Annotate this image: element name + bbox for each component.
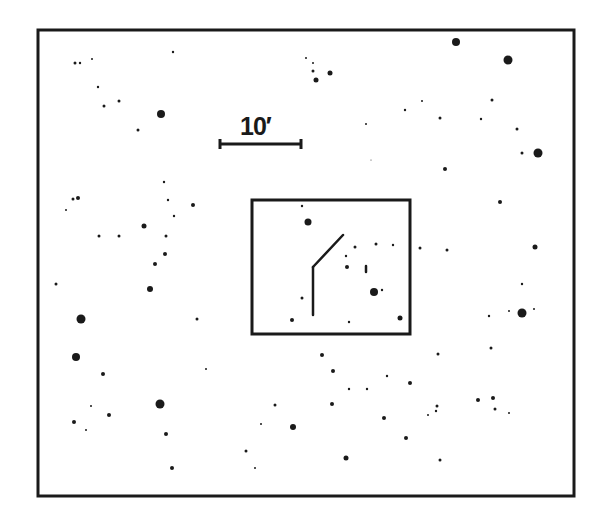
star — [301, 205, 303, 207]
star — [72, 198, 75, 201]
star — [421, 100, 423, 102]
target-marker — [313, 235, 366, 315]
star — [79, 62, 81, 64]
star — [348, 388, 350, 390]
star — [72, 353, 80, 361]
star — [72, 420, 76, 424]
star — [74, 62, 77, 65]
star — [312, 70, 315, 73]
star — [443, 167, 447, 171]
star — [172, 51, 174, 53]
star — [90, 405, 92, 407]
star — [191, 203, 195, 207]
star — [107, 413, 111, 417]
star — [345, 255, 347, 257]
star — [312, 62, 314, 64]
star — [382, 416, 386, 420]
star — [488, 315, 490, 317]
star — [165, 235, 168, 238]
marker-line — [313, 235, 343, 267]
star — [85, 429, 87, 431]
star — [371, 160, 372, 161]
star — [491, 99, 494, 102]
star — [375, 243, 378, 246]
star — [518, 309, 527, 318]
star — [521, 152, 524, 155]
star — [365, 123, 367, 125]
star — [439, 117, 442, 120]
star — [534, 149, 543, 158]
star — [408, 381, 412, 385]
star — [77, 315, 86, 324]
star — [305, 219, 312, 226]
star — [344, 456, 349, 461]
star — [164, 432, 168, 436]
star — [437, 353, 440, 356]
star — [163, 252, 167, 256]
star — [452, 38, 460, 46]
star — [98, 235, 101, 238]
star — [533, 245, 538, 250]
star — [480, 118, 482, 120]
star — [157, 110, 165, 118]
star — [345, 265, 349, 269]
star — [435, 410, 437, 412]
star — [118, 100, 121, 103]
star — [103, 105, 106, 108]
star — [205, 368, 207, 370]
star — [196, 318, 199, 321]
star — [173, 215, 175, 217]
star — [55, 283, 58, 286]
star — [91, 58, 93, 60]
star — [427, 414, 429, 416]
inset-star-field — [290, 205, 403, 323]
star — [404, 109, 406, 111]
star — [147, 286, 153, 292]
star — [254, 467, 256, 469]
star-field — [55, 38, 543, 470]
star — [354, 246, 357, 249]
star — [101, 372, 105, 376]
star — [494, 408, 497, 411]
star — [446, 249, 449, 252]
star — [476, 398, 480, 402]
star — [504, 56, 513, 65]
star — [65, 209, 67, 211]
star — [330, 402, 334, 406]
star — [521, 283, 523, 285]
star — [490, 347, 493, 350]
star — [290, 424, 296, 430]
star — [419, 247, 422, 250]
star — [97, 86, 99, 88]
star — [392, 244, 394, 246]
star — [436, 405, 439, 408]
star — [137, 129, 140, 132]
star — [533, 308, 535, 310]
star — [153, 262, 157, 266]
star — [274, 404, 277, 407]
star — [386, 375, 388, 377]
star — [491, 396, 495, 400]
star — [301, 297, 304, 300]
star — [76, 196, 80, 200]
star — [314, 78, 319, 83]
star — [260, 423, 262, 425]
star — [170, 466, 174, 470]
star — [439, 459, 442, 462]
star — [167, 199, 169, 201]
star — [118, 235, 121, 238]
target-inset-box — [252, 200, 410, 334]
star — [320, 353, 324, 357]
star — [142, 224, 147, 229]
star — [348, 321, 350, 323]
star — [516, 128, 519, 131]
star — [366, 388, 368, 390]
star — [331, 369, 335, 373]
finder-chart — [0, 0, 592, 526]
star — [398, 316, 403, 321]
star — [163, 181, 165, 183]
star — [498, 200, 502, 204]
star — [245, 450, 248, 453]
star — [290, 318, 294, 322]
star — [404, 436, 408, 440]
